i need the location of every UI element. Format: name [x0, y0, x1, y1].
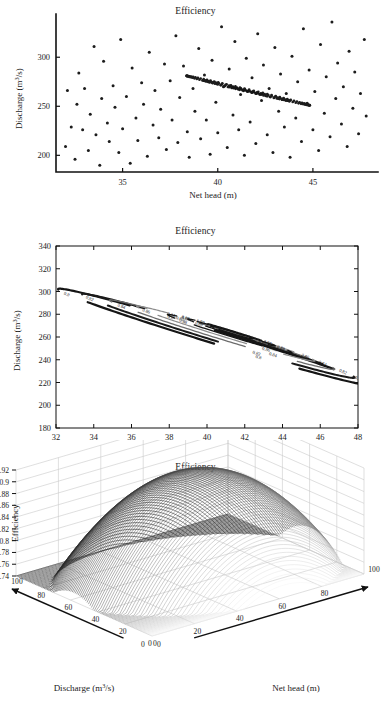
iso-ring-dot [195, 78, 198, 81]
scatter-point [216, 131, 219, 134]
scatter-point [176, 141, 179, 144]
scatter-point [102, 60, 105, 63]
scatter-point [330, 20, 333, 23]
iso-ring-dot [294, 101, 297, 104]
y3d-tick-label: 40 [92, 615, 100, 624]
scatter-points [64, 20, 368, 166]
iso-ring-dot [198, 78, 201, 81]
scatter-point [214, 101, 217, 104]
scatter-point [193, 110, 196, 113]
x-tick-label: 35 [118, 178, 126, 187]
scatter-point [81, 128, 84, 131]
iso-ring-dot [223, 85, 226, 88]
scatter-point [268, 87, 271, 90]
scatter-point [243, 154, 246, 157]
iso-ring-dot [220, 84, 223, 87]
scatter-point [165, 148, 168, 151]
grid-line [16, 440, 228, 470]
scatter-point [93, 45, 96, 48]
scatter-point [169, 79, 172, 82]
scatter-point [98, 164, 101, 167]
x-tick-label: 48 [354, 433, 362, 440]
scatter-point [271, 151, 274, 154]
scatter-point [308, 68, 311, 71]
x3d-tick-label: 60 [278, 602, 286, 611]
contour-label: 0.82 [338, 368, 348, 376]
scatter-point [359, 92, 362, 95]
scatter-point [203, 73, 206, 76]
axis-label-discharge: Discharge (m3/s) [13, 68, 24, 129]
scatter-point [205, 119, 208, 122]
iso-ring-dot [193, 77, 196, 80]
x-tick-label: 46 [316, 433, 324, 440]
scatter-point [157, 136, 160, 139]
scatter-point [140, 81, 143, 84]
scatter-point [300, 140, 303, 143]
y-tick-label: 250 [37, 102, 50, 111]
surface-mesh-line [16, 514, 228, 576]
scatter-point [174, 34, 177, 37]
z-tick-label: 0.86 [0, 501, 9, 510]
surface-plot: 0.740.760.780.80.820.840.860.880.90.92Ef… [0, 440, 391, 702]
iso-ring-dot [214, 82, 217, 85]
scatter-axes: 200250300354045Net head (m) [37, 14, 378, 200]
scatter-point [178, 96, 181, 99]
y3d-tick-label: 60 [65, 603, 73, 612]
x-tick-label: 44 [278, 433, 287, 440]
y-tick-label: 300 [37, 53, 50, 62]
y3d-tick-label: 100 [11, 577, 23, 586]
scatter-point [136, 139, 139, 142]
scatter-point [220, 25, 223, 28]
x3d-tick-label: 40 [236, 614, 244, 623]
scatter-point [329, 135, 332, 138]
scatter-point [226, 146, 229, 149]
x-tick-label: 36 [127, 433, 135, 440]
x-tick-label: 40 [214, 178, 222, 187]
y-tick-label: 300 [38, 288, 51, 297]
scatter-point [319, 43, 322, 46]
origin-tick-label-x: 0 [157, 640, 161, 649]
axis-label-efficiency: Efficiency [10, 504, 20, 542]
scatter-point [182, 65, 185, 68]
scatter-point [277, 110, 280, 113]
scatter-point [289, 156, 292, 159]
scatter-point [77, 71, 80, 74]
scatter-point [357, 132, 360, 135]
scatter-point [171, 119, 174, 122]
scatter-point [311, 128, 314, 131]
scatter-point [323, 112, 326, 115]
scatter-point [129, 162, 132, 165]
iso-ring-dot [211, 82, 214, 85]
grid-line [228, 440, 364, 480]
scatter-point [134, 117, 137, 120]
iso-ring-dot [216, 83, 219, 86]
scatter-point [70, 125, 73, 128]
scatter-point [74, 158, 77, 161]
iso-ring-dot [266, 95, 269, 98]
scatter-point [348, 50, 351, 53]
scatter-point [197, 47, 200, 50]
x-tick-label: 38 [165, 433, 173, 440]
scatter-point [131, 67, 134, 70]
panel-scatter: Efficiency 200250300354045Net head (m)Di… [0, 0, 391, 212]
surface-mesh-line [133, 530, 345, 627]
scatter-point [188, 156, 191, 159]
scatter-point [249, 120, 252, 123]
iso-ring-dot [272, 96, 275, 99]
z-tick-label: 0.76 [0, 560, 9, 569]
scatter-point [228, 68, 231, 71]
iso-ring-dot [209, 81, 212, 84]
net-head-axis-arrow [194, 587, 368, 638]
scatter-point [266, 133, 269, 136]
y-tick-label: 200 [37, 151, 50, 160]
scatter-point [100, 97, 103, 100]
scatter-point [290, 55, 293, 58]
scatter-point [294, 117, 297, 120]
scatter-point [192, 87, 195, 90]
iso-ring-dot [269, 96, 272, 99]
y-tick-label: 260 [38, 333, 51, 342]
scatter-point [211, 59, 214, 62]
scatter-point [334, 97, 337, 100]
x-tick-label: 40 [203, 433, 211, 440]
x-tick-label: 42 [241, 433, 249, 440]
